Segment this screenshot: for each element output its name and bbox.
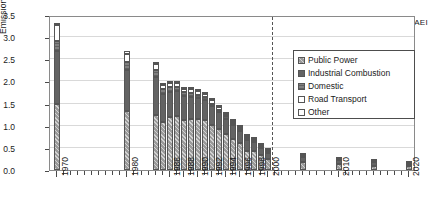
legend-item-label: Domestic: [308, 82, 343, 91]
bar-segment: [195, 95, 201, 99]
bar-segment: [174, 87, 180, 91]
bar-segment: [202, 94, 208, 97]
x-axis-tick-mark: [197, 171, 198, 177]
y-axis-tick-label: 2.0: [0, 78, 15, 86]
bar-segment: [251, 137, 257, 139]
x-axis-tick-label: 1992: [214, 157, 224, 176]
x-axis-tick-mark: [401, 171, 402, 175]
legend-item-label: Industrial Combustion: [308, 69, 390, 78]
bar-segment: [153, 70, 159, 77]
y-axis-title: Emission (Mt-S): [0, 0, 8, 58]
x-axis-tick-label: 2010: [341, 157, 351, 176]
bar-segment: [195, 89, 201, 91]
x-axis-tick-mark: [331, 171, 332, 175]
bar-segment: [371, 159, 377, 161]
bar-segment: [244, 140, 250, 151]
x-axis-tick-mark: [77, 171, 78, 175]
x-axis-tick-label: 1986: [172, 157, 182, 176]
bar-segment: [237, 131, 243, 143]
x-axis-tick-mark: [394, 171, 395, 175]
bar: [54, 24, 60, 170]
y-axis-tick-label: 1.0: [0, 123, 15, 131]
bar-segment: [237, 129, 243, 131]
bar-segment: [54, 23, 60, 25]
x-axis-tick-label: 1998: [257, 157, 267, 176]
bar-segment: [258, 143, 264, 145]
x-axis-tick-mark: [84, 171, 85, 175]
legend-item: Other: [298, 106, 414, 119]
x-axis-tick-mark: [253, 171, 254, 177]
bar-segment: [124, 51, 130, 53]
legend-swatch-icon: [298, 96, 305, 103]
bar-segment: [167, 92, 173, 117]
legend-item: Domestic: [298, 80, 414, 93]
bar-segment: [244, 138, 250, 140]
bar-segment: [167, 83, 173, 87]
legend-item: Industrial Combustion: [298, 67, 414, 80]
x-axis-tick-label: 1994: [228, 157, 238, 176]
bar-segment: [371, 166, 377, 170]
y-axis-tick-label: 0.0: [0, 167, 15, 175]
x-axis-tick-mark: [324, 171, 325, 175]
x-axis-tick-mark: [281, 171, 282, 175]
x-axis-tick-mark: [162, 171, 163, 175]
bar-segment: [54, 25, 60, 41]
bar-segment: [230, 119, 236, 121]
y-axis-tick-label: 3.5: [0, 12, 15, 20]
legend-item: Road Transport: [298, 93, 414, 106]
bar-segment: [153, 64, 159, 70]
bar-segment: [300, 157, 306, 163]
x-axis-tick-mark: [373, 171, 374, 175]
x-axis-tick-mark: [309, 171, 310, 175]
x-axis-tick-mark: [105, 171, 106, 175]
x-axis-tick-label: 1990: [200, 157, 210, 176]
bar-segment: [54, 41, 60, 52]
bar-segment: [265, 148, 271, 150]
x-axis-tick-mark: [288, 171, 289, 175]
bar-segment: [300, 162, 306, 170]
bar-segment: [174, 81, 180, 83]
bar-segment: [300, 153, 306, 155]
bar-segment: [230, 121, 236, 123]
x-axis-tick-label: 2020: [411, 157, 421, 176]
x-axis-tick-mark: [366, 171, 367, 175]
x-axis-tick-mark: [211, 171, 212, 177]
bar-segment: [195, 98, 201, 118]
bar-segment: [251, 142, 257, 151]
chart-root: Emission (Mt-S) 0.00.51.01.52.02.53.03.5…: [0, 0, 432, 222]
chart-legend: Public PowerIndustrial CombustionDomesti…: [293, 50, 415, 119]
x-axis-tick-mark: [155, 171, 156, 175]
bar: [300, 155, 306, 171]
bar-segment: [54, 51, 60, 103]
bar-segment: [124, 62, 130, 70]
bar-segment: [202, 92, 208, 94]
x-axis-tick-label: 1988: [186, 157, 196, 176]
x-axis-tick-mark: [91, 171, 92, 175]
bar-segment: [181, 89, 187, 93]
bar-segment: [124, 70, 130, 111]
bar-segment: [160, 122, 166, 170]
x-axis-tick-mark: [56, 171, 57, 177]
y-axis-tick-label: 1.5: [0, 101, 15, 109]
bar-segment: [216, 110, 222, 113]
bar-segment: [153, 77, 159, 115]
bar-segment: [216, 105, 222, 107]
x-axis-tick-label: 1996: [243, 157, 253, 176]
bar: [371, 160, 377, 170]
bar-segment: [181, 92, 187, 96]
bar-segment: [209, 100, 215, 103]
bar-segment: [174, 83, 180, 87]
x-axis-tick-mark: [126, 171, 127, 177]
bar-segment: [244, 136, 250, 138]
legend-swatch-icon: [298, 109, 305, 116]
x-axis-tick-mark: [141, 171, 142, 175]
bar-segment: [202, 100, 208, 120]
x-axis-tick-mark: [169, 171, 170, 177]
bar-segment: [209, 98, 215, 100]
bar-segment: [230, 125, 236, 139]
x-axis-tick-label: 1980: [130, 157, 140, 176]
bar: [153, 62, 159, 170]
legend-item-label: Public Power: [308, 56, 358, 65]
gridline: [50, 36, 414, 37]
historic-projection-divider: [272, 17, 273, 170]
